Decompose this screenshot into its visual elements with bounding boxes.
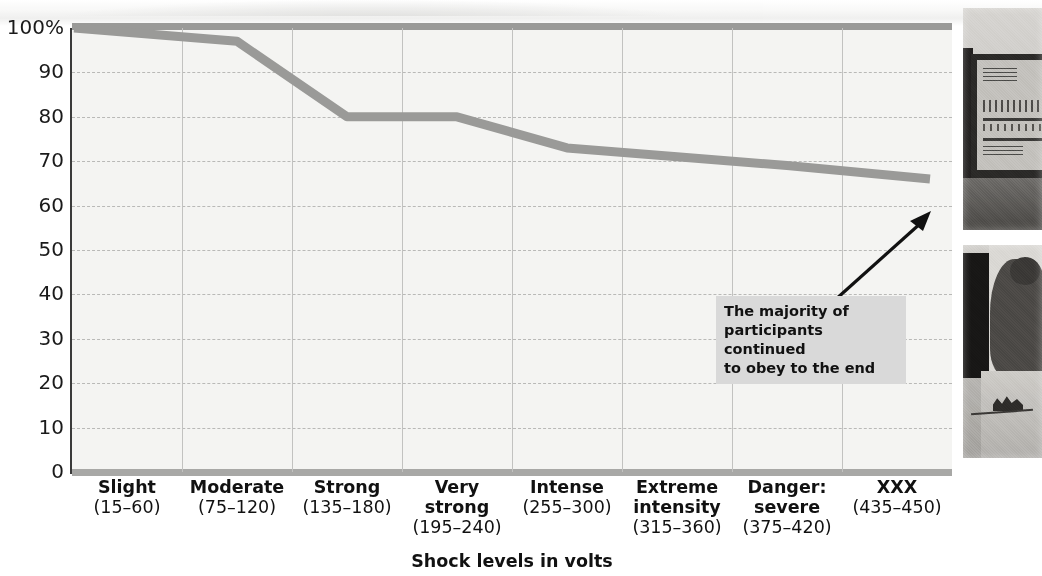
annotation-line-3: to obey to the end [724, 360, 875, 376]
annotation-line-2: participants continued [724, 322, 823, 357]
x-axis-label-name: Intense [512, 478, 622, 498]
x-axis-label-name: XXX [842, 478, 952, 498]
annotation-callout: The majority of participants continued t… [716, 296, 906, 384]
callout-arrow [835, 211, 931, 300]
x-axis-label-range: (75–120) [182, 498, 292, 518]
x-axis-label-name: severe [732, 498, 842, 518]
x-axis-label-name: Strong [292, 478, 402, 498]
x-axis-label-6: Extremeintensity(315–360) [622, 478, 732, 538]
x-axis-label-range: (135–180) [292, 498, 402, 518]
x-axis-label-name: intensity [622, 498, 732, 518]
shock-generator-photo [963, 8, 1042, 230]
x-axis-label-name: strong [402, 498, 512, 518]
x-axis-label-4: Verystrong(195–240) [402, 478, 512, 538]
x-axis-label-range: (15–60) [72, 498, 182, 518]
x-axis-label-8: XXX(435–450) [842, 478, 952, 518]
x-axis-label-range: (255–300) [512, 498, 622, 518]
x-axis-label-3: Strong(135–180) [292, 478, 402, 518]
x-axis-label-name: Extreme [622, 478, 732, 498]
learner-photo [963, 245, 1042, 458]
x-axis-label-name: Moderate [182, 478, 292, 498]
x-axis-label-range: (195–240) [402, 518, 512, 538]
x-axis-label-range: (435–450) [842, 498, 952, 518]
x-axis-label-5: Intense(255–300) [512, 478, 622, 518]
x-axis-labels: Slight(15–60)Moderate(75–120)Strong(135–… [72, 478, 952, 548]
annotation-line-1: The majority of [724, 303, 849, 319]
x-axis-label-1: Slight(15–60) [72, 478, 182, 518]
x-axis-label-7: Danger:severe(375–420) [732, 478, 842, 538]
x-axis-label-name: Slight [72, 478, 182, 498]
x-axis-label-2: Moderate(75–120) [182, 478, 292, 518]
x-axis-label-range: (315–360) [622, 518, 732, 538]
series-line-obedience [74, 28, 930, 179]
x-axis-label-range: (375–420) [732, 518, 842, 538]
x-axis-label-name: Danger: [732, 478, 842, 498]
chart-figure: 100%9080706050403020100 The majority of … [0, 0, 1042, 576]
x-axis-caption: Shock levels in volts [72, 551, 952, 571]
x-axis-label-name: Very [402, 478, 512, 498]
